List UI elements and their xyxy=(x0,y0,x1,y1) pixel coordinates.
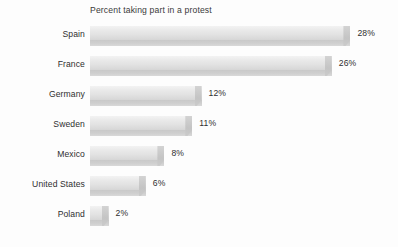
bar-row: Poland2% xyxy=(0,204,398,234)
bar-row: Mexico8% xyxy=(0,144,398,174)
bar xyxy=(90,26,350,47)
bar-value-label: 6% xyxy=(153,178,166,188)
bar xyxy=(90,206,109,227)
category-label: France xyxy=(0,59,85,69)
bar-shadow xyxy=(90,100,202,106)
category-label: Spain xyxy=(0,29,85,39)
bar-shadow xyxy=(90,160,164,166)
category-label: Sweden xyxy=(0,119,85,129)
plot-area: Spain28%France26%Germany12%Sweden11%Mexi… xyxy=(0,24,398,244)
category-label: Germany xyxy=(0,89,85,99)
chart-title: Percent taking part in a protest xyxy=(90,5,212,15)
category-label: Poland xyxy=(0,209,85,219)
bar xyxy=(90,146,164,167)
bar-row: Sweden11% xyxy=(0,114,398,144)
category-label: Mexico xyxy=(0,149,85,159)
bar xyxy=(90,56,332,77)
bar-value-label: 28% xyxy=(357,28,375,38)
bar-face xyxy=(90,176,146,190)
bar-value-label: 8% xyxy=(171,148,184,158)
bar-face xyxy=(90,56,332,70)
bar-row: France26% xyxy=(0,54,398,84)
bar-face xyxy=(90,86,202,100)
bar-value-label: 2% xyxy=(116,208,129,218)
bar xyxy=(90,86,202,107)
bar-face xyxy=(90,116,192,130)
bar-face xyxy=(90,26,350,40)
bar-row: United States6% xyxy=(0,174,398,204)
bar-face xyxy=(90,146,164,160)
bar-row: Spain28% xyxy=(0,24,398,54)
bar-row: Germany12% xyxy=(0,84,398,114)
bar xyxy=(90,116,192,137)
bar-shadow xyxy=(90,40,350,46)
bar xyxy=(90,176,146,197)
bar-shadow xyxy=(90,70,332,76)
bar-shadow xyxy=(90,130,192,136)
bar-value-label: 26% xyxy=(339,58,357,68)
bar-shadow xyxy=(90,190,146,196)
bar-value-label: 12% xyxy=(209,88,227,98)
bar-chart: Percent taking part in a protest Spain28… xyxy=(0,0,398,247)
category-label: United States xyxy=(0,179,85,189)
bar-value-label: 11% xyxy=(199,118,216,128)
